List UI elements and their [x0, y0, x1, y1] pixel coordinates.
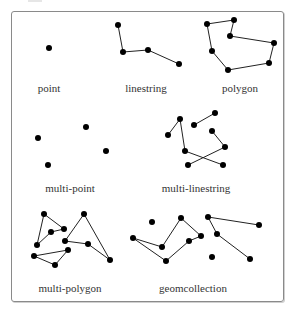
vertex-dot [209, 128, 215, 134]
vertex-dot [186, 238, 192, 244]
vertex-dot [45, 162, 51, 168]
vertex-dot [52, 262, 58, 268]
vertex-dot [225, 67, 231, 73]
vertex-dot [214, 231, 220, 237]
vertex-dot [266, 60, 272, 66]
vertex-dot [159, 244, 165, 250]
vertex-dot [163, 258, 169, 264]
label-linestring: linestring [125, 82, 167, 94]
vertex-dot [145, 47, 151, 53]
vertex-dot [103, 148, 109, 154]
vertex-dot [177, 116, 183, 122]
label-geomcollection: geomcollection [159, 282, 227, 294]
vertex-dot [212, 110, 218, 116]
polygon-ring [34, 250, 68, 265]
vertex-dot [185, 162, 191, 168]
vertex-dot [176, 61, 182, 67]
panel-point [46, 45, 52, 51]
vertex-dot [227, 33, 233, 39]
panel-multi-linestring [165, 110, 228, 168]
label-multi-linestring: multi-linestring [162, 182, 230, 194]
vertex-dot [191, 122, 197, 128]
vertex-dot [130, 235, 136, 241]
label-multi-point: multi-point [45, 182, 95, 194]
vertex-dot [34, 242, 40, 248]
vertex-dot [256, 222, 262, 228]
vertex-dot [61, 226, 67, 232]
linestring-path [194, 113, 215, 125]
vertex-dot [83, 124, 89, 130]
vertex-dot [46, 45, 52, 51]
vertex-dot [48, 229, 54, 235]
polygon-ring [65, 214, 110, 260]
label-multi-polygon: multi-polygon [39, 282, 102, 294]
vertex-dot [149, 219, 155, 225]
vertex-dot [81, 211, 87, 217]
vertex-dot [65, 247, 71, 253]
panel-linestring [115, 22, 182, 67]
vertex-dot [41, 211, 47, 217]
vertex-dot [178, 215, 184, 221]
label-point: point [38, 82, 61, 94]
polygon-ring [207, 20, 274, 70]
panel-multi-point [35, 124, 109, 168]
vertex-dot [35, 135, 41, 141]
vertex-dot [31, 253, 37, 259]
vertex-dot [205, 214, 211, 220]
vertex-dot [220, 162, 226, 168]
vertex-dot [209, 48, 215, 54]
vertex-dot [62, 238, 68, 244]
vertex-dot [165, 132, 171, 138]
vertex-dot [222, 144, 228, 150]
vertex-dot [115, 22, 121, 28]
vertex-dot [209, 254, 215, 260]
vertex-dot [107, 257, 113, 263]
linestring-path [208, 217, 259, 259]
vertex-dot [247, 256, 253, 262]
linestring-path [188, 131, 225, 165]
vertex-dot [182, 148, 188, 154]
linestring-path [118, 25, 179, 64]
vertex-dot [120, 49, 126, 55]
panel-multi-polygon [31, 211, 113, 268]
panel-polygon [204, 17, 277, 73]
vertex-dot [85, 241, 91, 247]
geometry-canvas [0, 0, 292, 312]
vertex-dot [198, 233, 204, 239]
panel-geomcollection [130, 214, 262, 264]
vertex-dot [204, 21, 210, 27]
vertex-dot [231, 17, 237, 23]
vertex-dot [271, 40, 277, 46]
label-polygon: polygon [222, 82, 258, 94]
